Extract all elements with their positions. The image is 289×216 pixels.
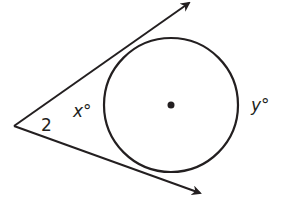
tangent-diagram: 2 x° y° [0,0,289,216]
far-arc-label: y° [250,95,270,115]
center-point [168,102,175,109]
near-arc-label: x° [72,101,92,121]
lower-tangent-ray [14,126,200,193]
upper-tangent-ray [14,3,189,126]
angle-label: 2 [41,115,52,135]
